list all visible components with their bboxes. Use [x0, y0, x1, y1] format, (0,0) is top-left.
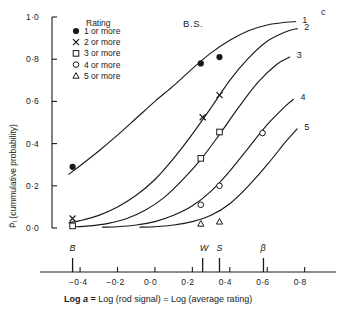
legend-open-circle-marker — [73, 62, 79, 68]
observer-label: B.S. — [183, 19, 203, 29]
filled-circle-marker-c1 — [216, 54, 222, 60]
square-marker-c3 — [217, 129, 223, 135]
plot-canvas — [0, 0, 344, 316]
filled-circle-marker-c1 — [69, 164, 75, 170]
x-tick-label-0: −0·4 — [69, 278, 87, 287]
x-marker-label-W: W — [200, 244, 209, 253]
x-axis-ruler-group — [40, 258, 336, 272]
x-marker-label-B: B — [70, 244, 76, 253]
legend-cross-marker — [73, 39, 79, 45]
curve-5 — [140, 129, 297, 227]
figure-root: 0·00·20·40·60·81·0 −0·4−0·20·00·20·40·60… — [0, 0, 344, 316]
curve-label-2: 2 — [304, 23, 309, 32]
square-marker-c3 — [70, 223, 76, 229]
triangle-marker-c5 — [216, 218, 222, 224]
x-tick-label-6: 0·8 — [294, 278, 307, 287]
square-marker-c3 — [198, 156, 204, 162]
legend-label-1: 1 or more — [84, 27, 120, 36]
legend-triangle-marker — [73, 73, 79, 79]
x-tick-label-5: 0·6 — [256, 278, 269, 287]
x-marker-label-S: S — [216, 244, 222, 253]
filled-circle-marker-c1 — [198, 60, 204, 66]
x-marker-label-β: β — [260, 244, 265, 253]
x-tick-label-2: 0·0 — [144, 278, 157, 287]
y-tick-1: 0·2 — [26, 182, 39, 191]
curve-label-3: 3 — [297, 51, 302, 60]
y-axis-label: P̄ᵢ (cummulative probability) — [9, 124, 18, 228]
legend-label-3: 3 or more — [84, 49, 120, 58]
cross-marker-c2 — [70, 216, 76, 222]
triangle-marker-c5 — [198, 221, 204, 227]
y-tick-3: 0·6 — [26, 97, 39, 106]
legend-label-2: 2 or more — [84, 38, 120, 47]
axes-group — [52, 17, 57, 228]
x-tick-label-4: 0·4 — [219, 278, 232, 287]
cross-marker-c2 — [216, 92, 222, 98]
legend-label-4: 4 or more — [84, 61, 120, 70]
y-tick-2: 0·4 — [26, 140, 39, 149]
y-tick-0: 0·0 — [26, 224, 39, 233]
x-tick-label-3: 0·2 — [181, 278, 194, 287]
open-circle-marker-c4 — [260, 130, 266, 136]
curve-group-label: c — [321, 8, 326, 17]
x-tick-label-1: −0·2 — [107, 278, 125, 287]
legend-markers-group — [73, 28, 79, 78]
y-tick-4: 0·8 — [26, 55, 39, 64]
legend-filled-circle-marker — [73, 28, 79, 34]
open-circle-marker-c4 — [198, 202, 204, 208]
x-axis-caption: Log a = Log (rod signal) = Log (average … — [64, 295, 252, 304]
y-tick-5: 1·0 — [26, 13, 39, 22]
legend-label-5: 5 or more — [84, 72, 120, 81]
open-circle-marker-c4 — [217, 183, 223, 189]
legend-square-marker — [73, 51, 79, 57]
curve-3 — [73, 57, 290, 227]
curve-label-5: 5 — [304, 123, 309, 132]
curve-label-4: 4 — [300, 93, 305, 102]
